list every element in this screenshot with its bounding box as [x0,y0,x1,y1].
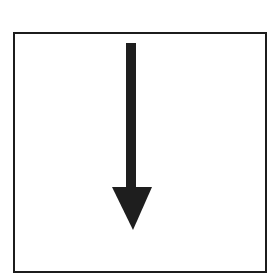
arrow-shaft [126,43,136,189]
arrow-diagram [0,0,276,276]
diagram-background [0,0,276,276]
